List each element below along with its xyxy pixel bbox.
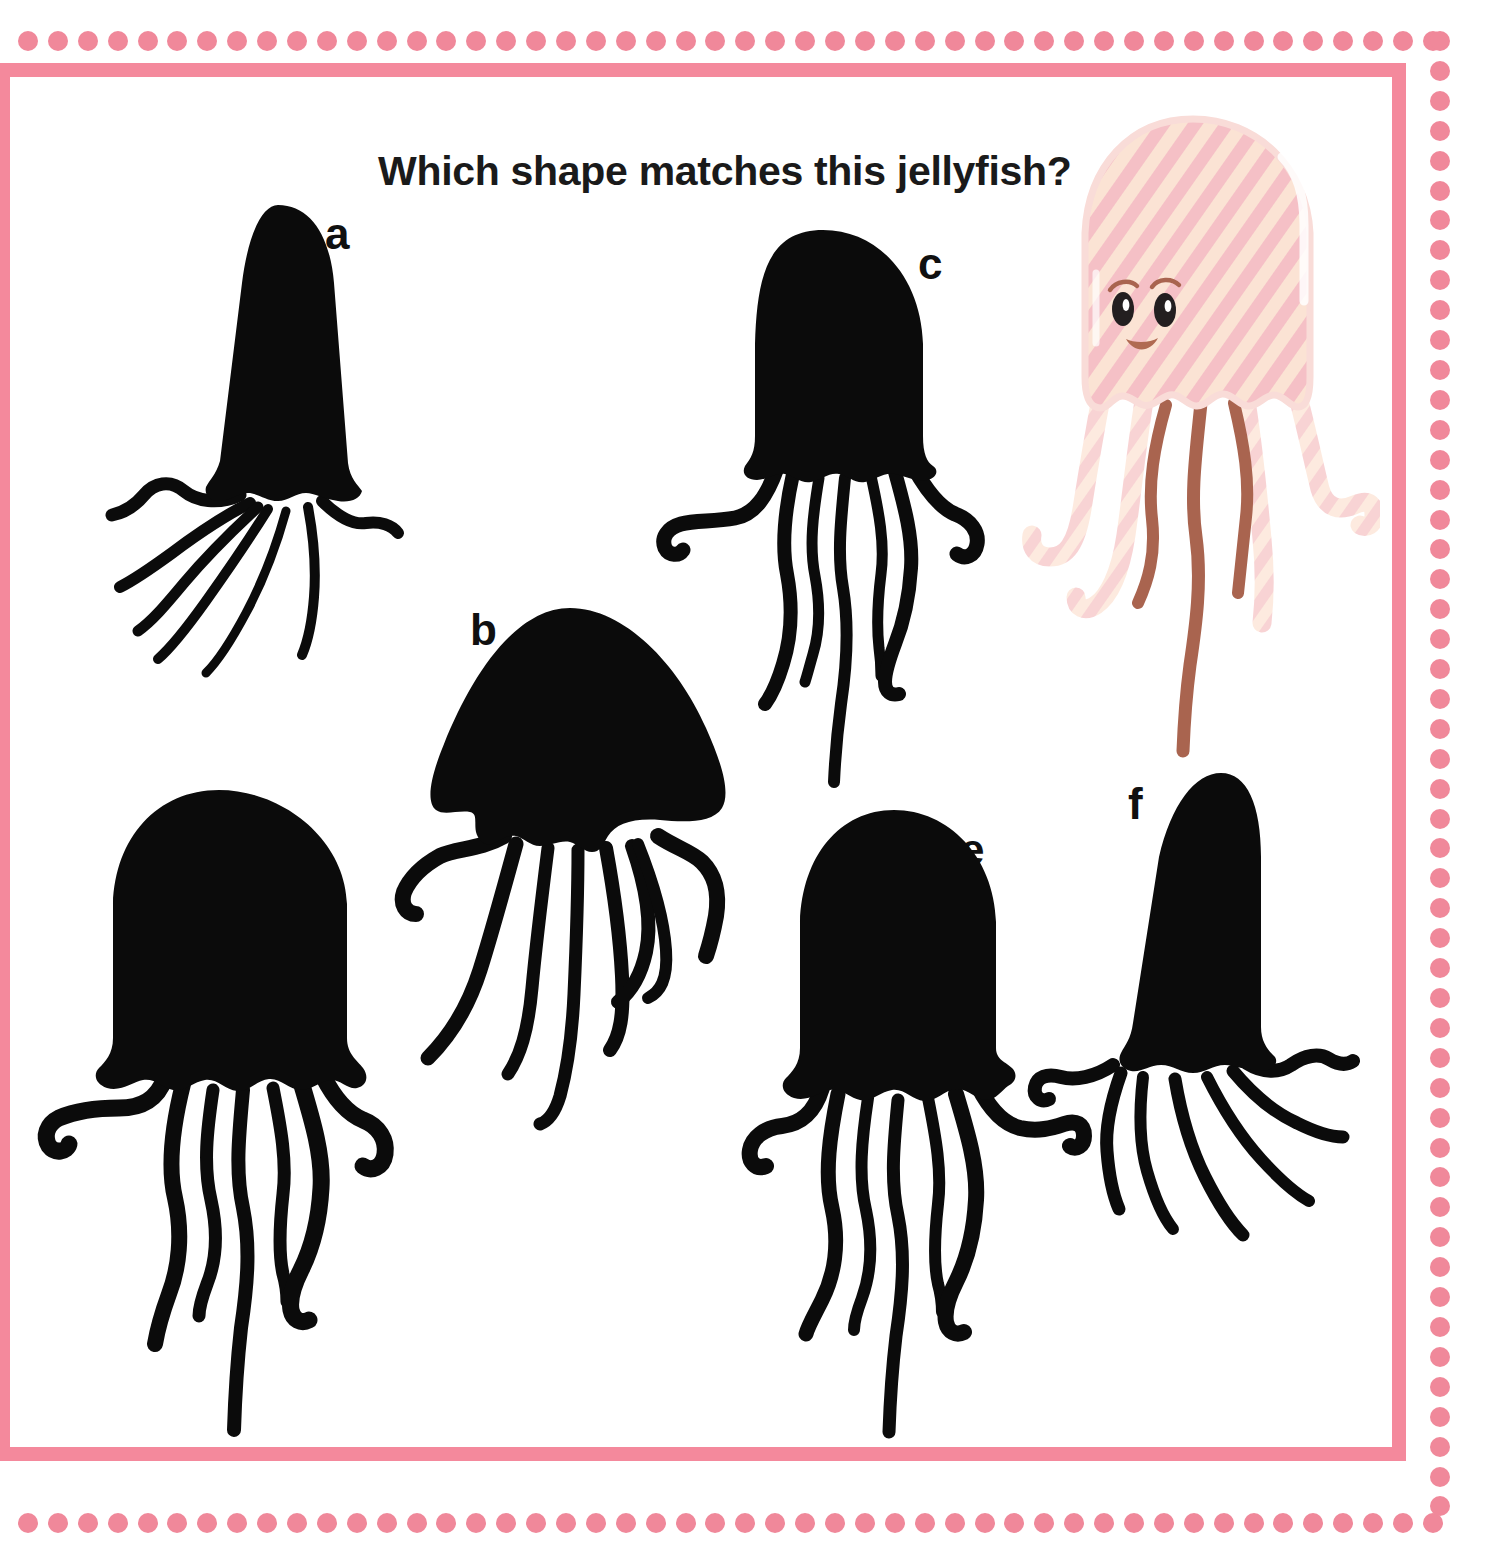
border-dot [18,31,38,51]
page-title: Which shape matches this jellyfish? [378,148,1072,195]
border-dot [1214,31,1234,51]
left-eye-highlight [1123,299,1130,311]
border-dot [1430,988,1450,1008]
border-dot [1430,31,1450,51]
dotted-border-bottom [18,1513,1443,1533]
right-eye-highlight [1165,300,1172,312]
border-dot [1430,181,1450,201]
border-dot [1004,1513,1024,1533]
border-dot [1064,31,1084,51]
border-dot [1303,1513,1323,1533]
border-dot [1124,31,1144,51]
border-dot [197,1513,217,1533]
border-dot [1430,868,1450,888]
border-dot [1034,1513,1054,1533]
border-dot [1124,1513,1144,1533]
border-dot [1430,1467,1450,1487]
border-dot [526,1513,546,1533]
border-dot [825,1513,845,1533]
silhouette-option-c[interactable] [655,220,995,790]
border-dot [1430,1377,1450,1397]
border-dot [1430,61,1450,81]
border-dot [1430,659,1450,679]
border-dot [167,1513,187,1533]
border-dot [556,31,576,51]
border-dot [1430,928,1450,948]
border-dot [646,1513,666,1533]
border-dot [1214,1513,1234,1533]
border-dot [1430,330,1450,350]
dotted-border-top [18,31,1443,51]
border-dot [48,1513,68,1533]
border-dot [1430,1078,1450,1098]
border-dot [1430,1197,1450,1217]
border-dot [705,1513,725,1533]
border-dot [945,31,965,51]
border-dot [1430,719,1450,739]
border-dot [317,1513,337,1533]
border-dot [1430,1048,1450,1068]
border-dot [1034,31,1054,51]
border-dot [676,31,696,51]
border-dot [1333,31,1353,51]
border-dot [227,31,247,51]
border-dot [1430,1496,1450,1516]
border-dot [287,1513,307,1533]
silhouette-option-e[interactable] [728,798,1088,1438]
bell-e [783,810,1016,1101]
silhouette-option-a[interactable] [110,195,400,695]
border-dot [1430,958,1450,978]
border-dot [676,1513,696,1533]
silhouette-option-f[interactable] [1035,765,1355,1310]
border-dot [1430,240,1450,260]
bell-c [744,230,937,482]
border-dot [1154,1513,1174,1533]
border-dot [436,1513,456,1533]
border-dot [1430,1287,1450,1307]
border-dot [1333,1513,1353,1533]
border-dot [586,1513,606,1533]
border-dot [138,1513,158,1533]
bell-f [1119,773,1276,1073]
border-dot [616,1513,636,1533]
border-dot [765,31,785,51]
border-dot [347,1513,367,1533]
border-dot [317,31,337,51]
border-dot [466,1513,486,1533]
border-dot [1094,31,1114,51]
border-dot [1430,898,1450,918]
border-dot [556,1513,576,1533]
bell-a [206,205,362,502]
border-dot [915,31,935,51]
border-dot [1430,450,1450,470]
border-dot [1244,31,1264,51]
border-dot [167,31,187,51]
border-dot [18,1513,38,1533]
border-dot [735,31,755,51]
border-dot [1363,1513,1383,1533]
border-dot [1273,31,1293,51]
border-dot [1430,1317,1450,1337]
border-dot [1430,599,1450,619]
border-dot [526,31,546,51]
border-dot [1064,1513,1084,1533]
border-dot [1363,31,1383,51]
border-dot [1430,1108,1450,1128]
border-dot [1430,539,1450,559]
border-dot [855,31,875,51]
border-dot [1430,270,1450,290]
border-dot [377,1513,397,1533]
border-dot [1184,1513,1204,1533]
right-eye [1154,293,1176,327]
border-dot [1430,480,1450,500]
silhouette-option-d[interactable] [35,778,405,1438]
border-dot [496,31,516,51]
border-dot [1303,31,1323,51]
border-dot [1430,300,1450,320]
border-dot [1430,1227,1450,1247]
border-dot [825,31,845,51]
border-dot [705,31,725,51]
border-dot [78,31,98,51]
border-dot [1393,1513,1413,1533]
border-dot [1430,210,1450,230]
